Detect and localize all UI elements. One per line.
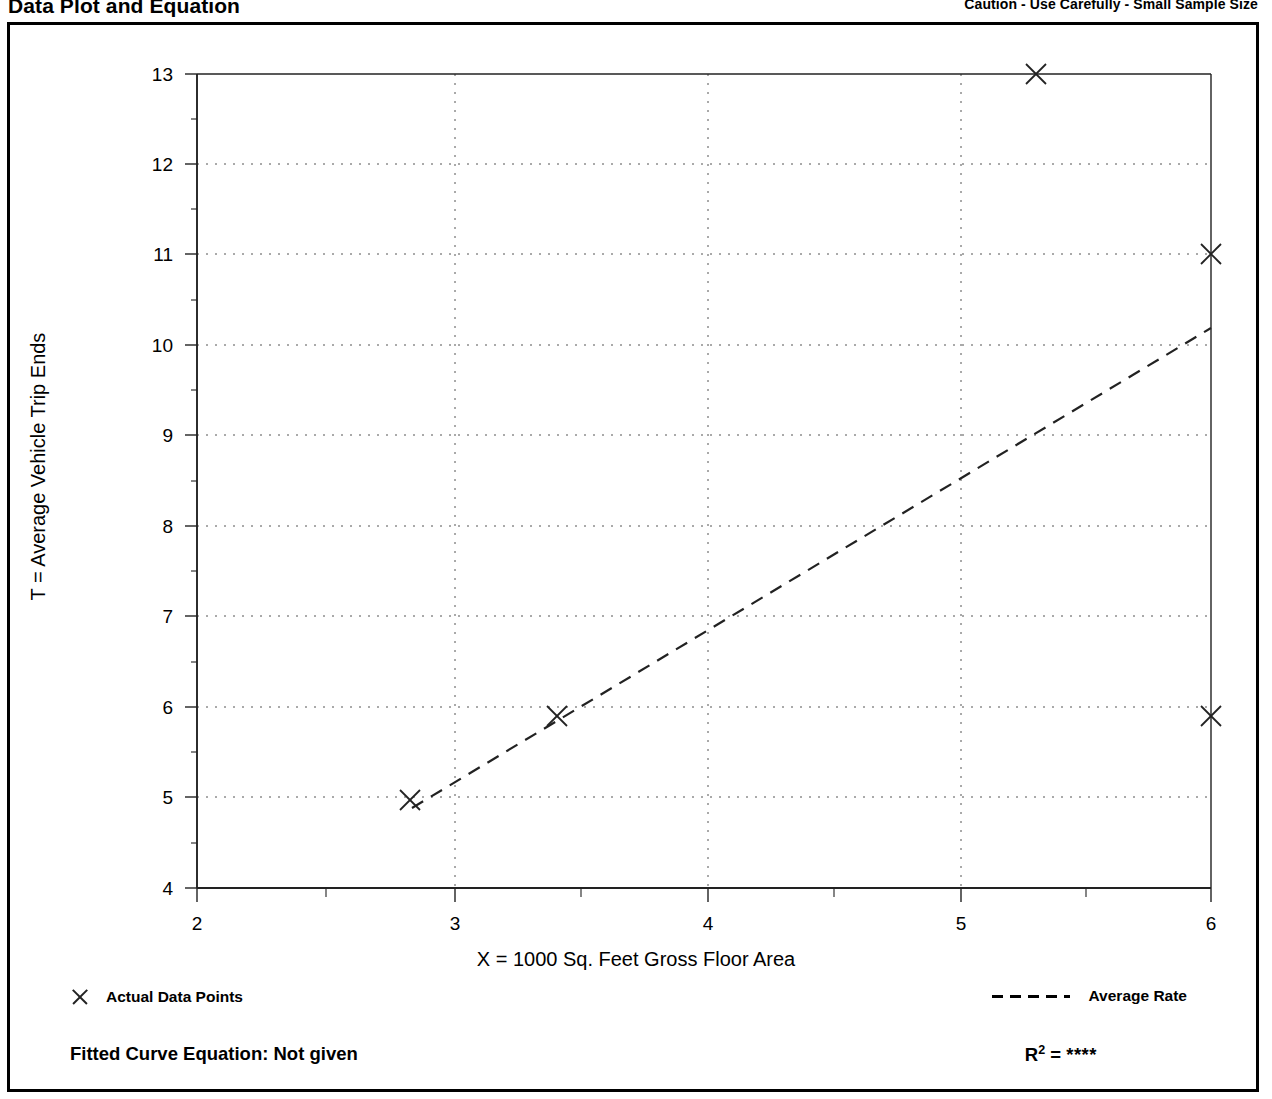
y-tick-label: 8: [162, 516, 173, 537]
caution-note: Caution - Use Carefully - Small Sample S…: [964, 0, 1258, 12]
y-tick-label: 12: [152, 154, 173, 175]
page-root: Data Plot and Equation Caution - Use Car…: [0, 0, 1272, 1099]
data-point: [400, 790, 420, 810]
y-tick-label: 10: [152, 335, 173, 356]
y-tick-label: 9: [162, 425, 173, 446]
dashed-line-icon: [992, 995, 1070, 998]
x-tick-label: 5: [956, 913, 967, 934]
grid-vertical: [455, 74, 961, 888]
r-squared-symbol: R: [1025, 1044, 1038, 1065]
page-header: Data Plot and Equation Caution - Use Car…: [0, 0, 1272, 18]
axes-box: [197, 74, 1211, 888]
y-tick-label: 6: [162, 697, 173, 718]
page-title: Data Plot and Equation: [8, 0, 240, 18]
scatter-plot-svg: 13 12 11 10 9 8 7 6 5 4 2 3 4 5: [10, 25, 1262, 945]
x-axis-ticks: [197, 888, 1211, 902]
x-tick-label: 4: [703, 913, 714, 934]
content-frame: T = Average Vehicle Trip Ends X = 1000 S…: [7, 22, 1259, 1092]
y-tick-label: 5: [162, 787, 173, 808]
chart-legend: Actual Data Points Average Rate: [10, 987, 1262, 1029]
x-tick-label: 6: [1206, 913, 1217, 934]
x-tick-label: 2: [192, 913, 203, 934]
grid-horizontal: [197, 164, 1211, 797]
y-tick-labels: 13 12 11 10 9 8 7 6 5 4: [152, 64, 174, 899]
x-axis-title: X = 1000 Sq. Feet Gross Floor Area: [10, 948, 1262, 971]
r-squared-value: ****: [1066, 1044, 1097, 1065]
equation-row: Fitted Curve Equation: Not given R2 = **…: [10, 1043, 1262, 1087]
legend-item-data-points: Actual Data Points: [70, 987, 243, 1007]
x-axis-minor-ticks: [326, 888, 1086, 897]
y-tick-label: 4: [162, 878, 173, 899]
fitted-curve-equation: Fitted Curve Equation: Not given: [70, 1043, 358, 1065]
r-squared-block: R2 = ****: [1025, 1043, 1097, 1066]
r-squared-equals: =: [1045, 1044, 1066, 1065]
y-tick-label: 7: [162, 606, 173, 627]
y-tick-label: 11: [153, 244, 173, 265]
y-tick-label: 13: [152, 64, 173, 85]
data-point-markers: [400, 64, 1221, 810]
legend-label-average-rate: Average Rate: [1088, 987, 1187, 1005]
average-rate-line: [412, 328, 1211, 808]
legend-label-data-points: Actual Data Points: [106, 988, 243, 1006]
x-tick-labels: 2 3 4 5 6: [192, 913, 1217, 934]
x-marker-icon: [70, 987, 90, 1007]
x-tick-label: 3: [450, 913, 461, 934]
chart-area: T = Average Vehicle Trip Ends X = 1000 S…: [10, 25, 1262, 1095]
legend-item-average-rate: Average Rate: [992, 987, 1187, 1005]
